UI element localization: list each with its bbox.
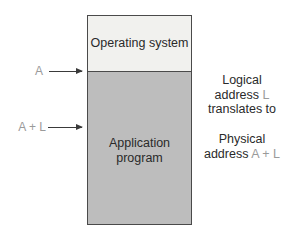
application-label-line2: program [88,151,191,166]
operating-system-region: Operating system [87,15,192,72]
marker-a-plus-l-label: A + L [10,120,46,134]
marker-a-plus-l-arrow-icon [48,127,82,128]
application-label-line1: Application [88,136,191,151]
annotation-line5: address A + L [200,147,284,162]
logical-address-annotation: Logical address L translates to [200,73,284,117]
annotation-line2-prefix: address [215,88,263,102]
annotation-line1: Logical [200,73,284,88]
physical-address-annotation: Physical address A + L [200,132,284,161]
operating-system-label: Operating system [88,36,191,51]
annotation-line3: translates to [200,102,284,117]
annotation-var-a-plus-l: A + L [251,147,280,161]
annotation-line4: Physical [200,132,284,147]
application-program-label: Application program [88,136,191,166]
marker-a-arrow-icon [49,71,82,72]
annotation-var-l: L [263,88,270,102]
application-program-region: Application program [87,71,192,225]
annotation-line2: address L [200,88,284,103]
annotation-line5-prefix: address [204,147,251,161]
marker-a-label: A [20,64,43,78]
